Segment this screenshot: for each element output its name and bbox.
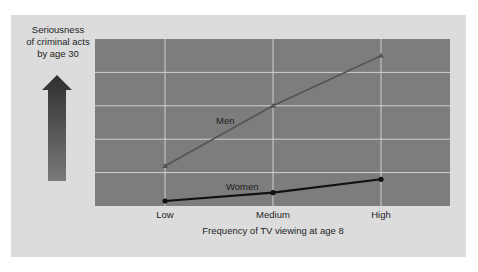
series-label-men: Men (216, 115, 234, 126)
up-arrow-icon (42, 75, 72, 181)
series-label-women: Women (226, 181, 259, 192)
x-tick-low: Low (156, 209, 173, 220)
x-axis-label: Frequency of TV viewing at age 8 (202, 225, 343, 236)
x-tick-medium: Medium (256, 209, 290, 220)
x-tick-high: High (371, 209, 391, 220)
